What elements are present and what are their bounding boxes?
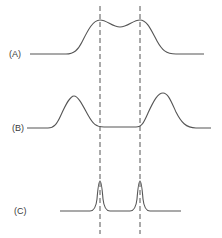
trace-a-label: (A) — [9, 49, 21, 59]
trace-c: (C) — [14, 181, 181, 216]
peak-diagram: (A) (B) (C) — [0, 0, 222, 238]
trace-a: (A) — [9, 20, 204, 59]
trace-b-curve — [27, 93, 211, 128]
trace-a-curve — [30, 20, 204, 54]
trace-b: (B) — [12, 93, 211, 133]
trace-b-label: (B) — [12, 123, 24, 133]
trace-c-label: (C) — [14, 206, 27, 216]
trace-c-curve — [60, 181, 181, 211]
